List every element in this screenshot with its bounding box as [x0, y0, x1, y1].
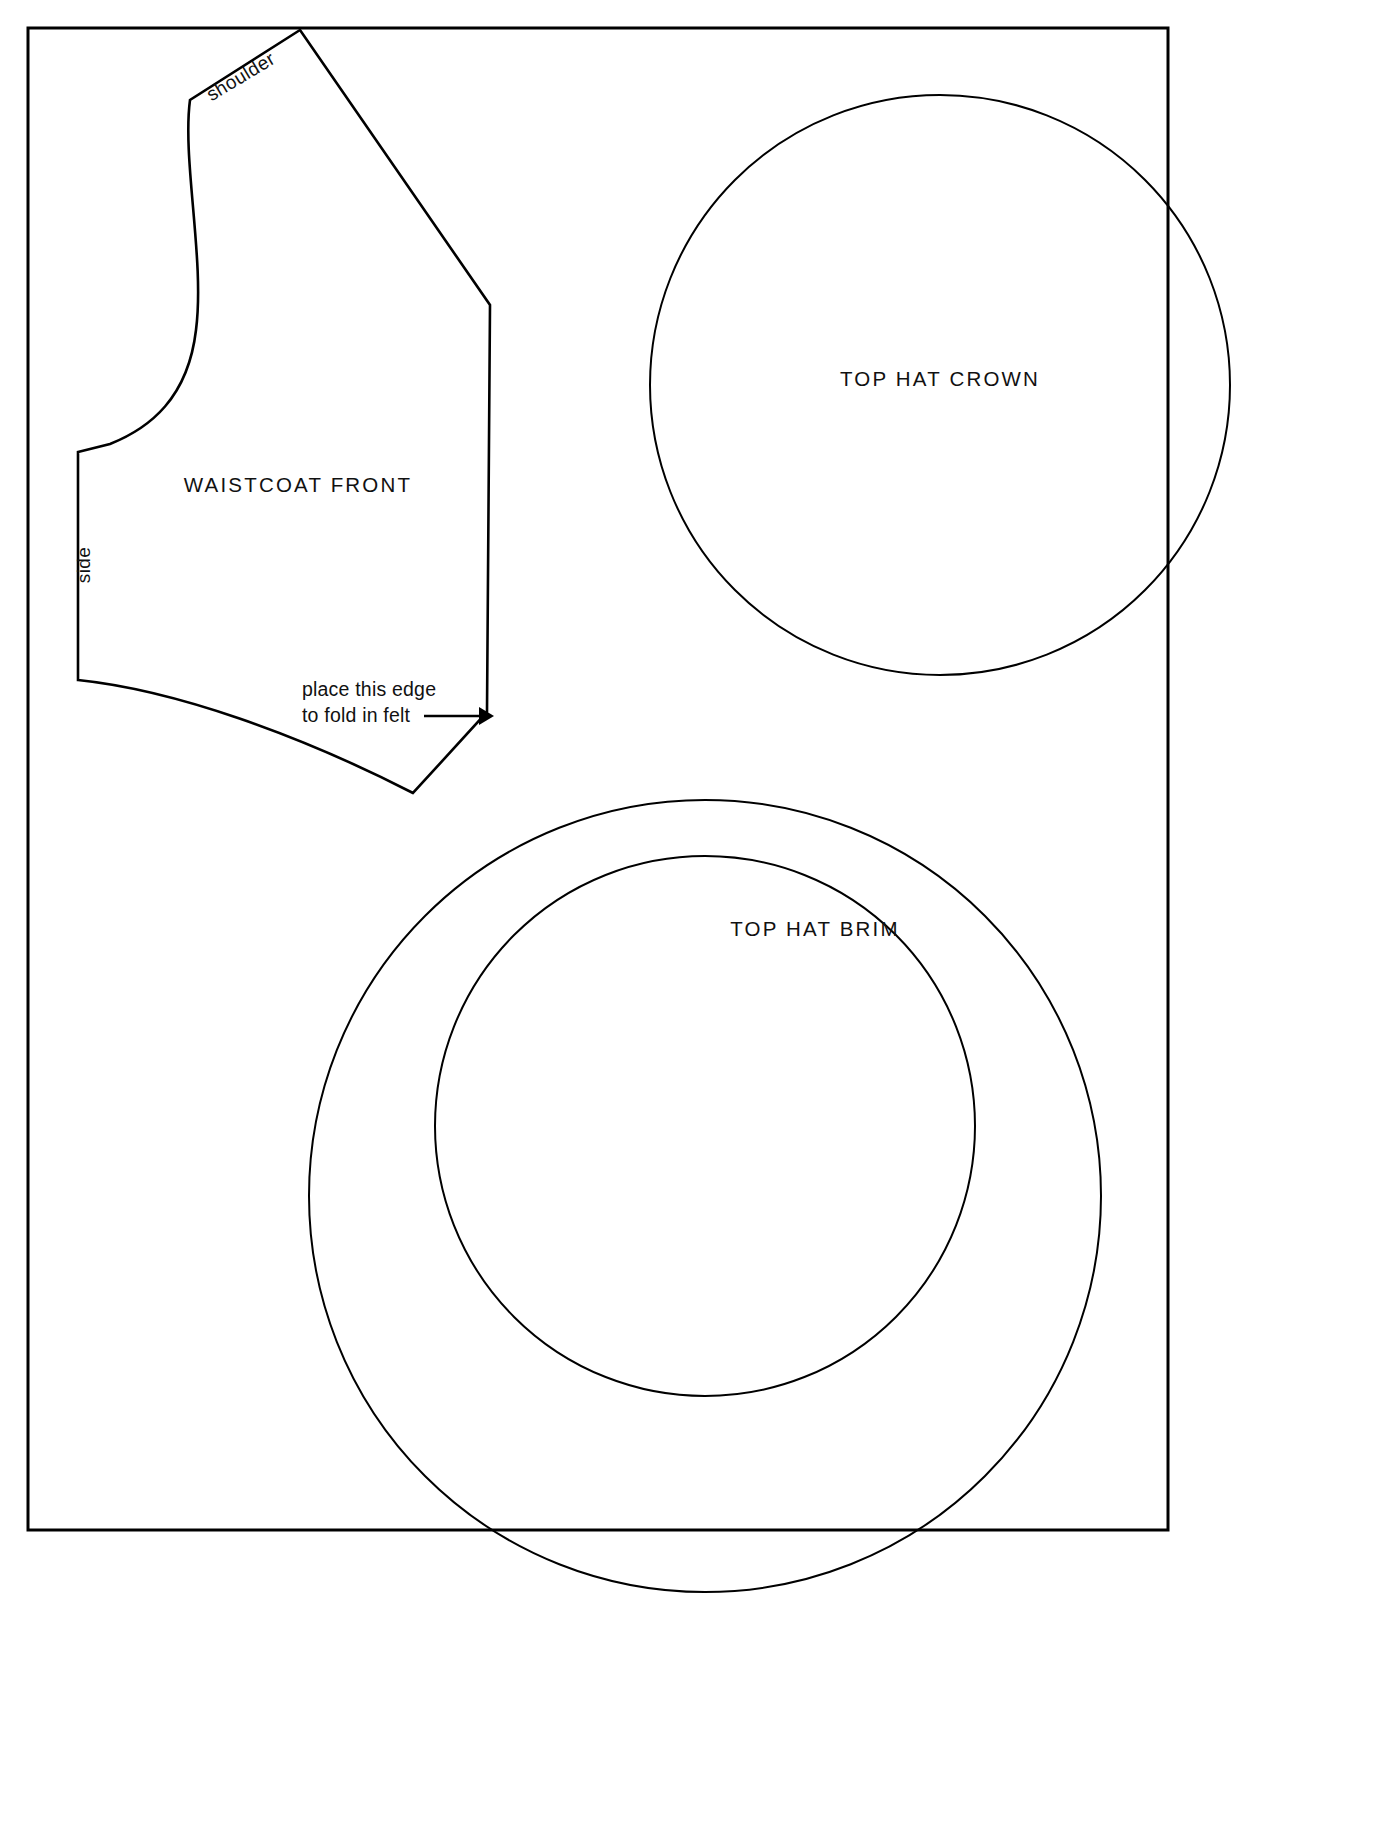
pattern-canvas: WAISTCOAT FRONT shoulder side place this…: [0, 0, 1393, 1830]
top-hat-crown-label: TOP HAT CROWN: [840, 367, 1040, 390]
waistcoat-front-piece: WAISTCOAT FRONT shoulder side place this…: [73, 30, 494, 793]
pattern-sheet: WAISTCOAT FRONT shoulder side place this…: [0, 0, 1393, 1830]
side-edge-label: side: [73, 547, 94, 583]
fold-note-line-1: place this edge: [302, 678, 436, 700]
top-hat-brim-piece: TOP HAT BRIM: [309, 800, 1101, 1592]
top-hat-crown-piece: TOP HAT CROWN: [650, 95, 1230, 675]
fold-note-line-2: to fold in felt: [302, 704, 411, 726]
top-hat-brim-label: TOP HAT BRIM: [730, 917, 900, 940]
shoulder-edge-label: shoulder: [203, 48, 279, 105]
waistcoat-front-label: WAISTCOAT FRONT: [184, 473, 413, 496]
page-border-frame: [28, 28, 1168, 1530]
top-hat-brim-outer-circle: [309, 800, 1101, 1592]
